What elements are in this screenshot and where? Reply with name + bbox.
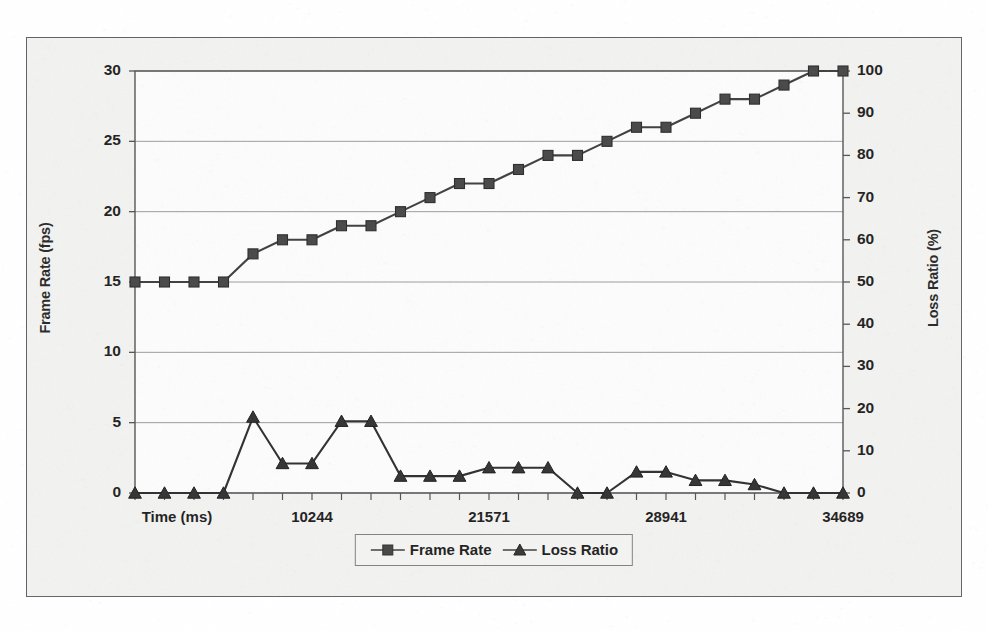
chart-legend: Frame Rate Loss Ratio [355,534,633,566]
chart-frame: Frame Rate (fps) Loss Ratio (%) 05101520… [26,37,962,597]
y-axis-right-tick-label: 80 [857,145,903,163]
y-axis-left-tick-label: 25 [75,131,121,149]
y-axis-right-tick-label: 60 [857,230,903,248]
legend-label-loss-ratio: Loss Ratio [542,541,619,558]
legend-entry-loss-ratio: Loss Ratio [502,541,619,558]
triangle-marker-icon [502,543,538,557]
x-axis-tick-label: 34689 [822,508,864,525]
y-axis-right-tick-label: 0 [857,483,903,501]
y-axis-right-tick-label: 40 [857,314,903,332]
y-axis-right-tick-label: 50 [857,272,903,290]
y-axis-right-tick-label: 10 [857,441,903,459]
y-axis-left-tick-label: 5 [75,413,121,431]
x-axis-tick-label: 21571 [468,508,510,525]
y-axis-right-tick-label: 20 [857,399,903,417]
y-axis-right-tick-label: 90 [857,103,903,121]
y-axis-left-tick-label: 0 [75,483,121,501]
y-axis-right-title: Loss Ratio (%) [925,178,941,378]
y-axis-right-tick-label: 100 [857,61,903,79]
x-axis-title: Time (ms) [142,508,213,525]
x-axis-tick-label: 28941 [645,508,687,525]
y-axis-left-tick-label: 30 [75,61,121,79]
square-marker-icon [370,543,406,557]
y-axis-left-tick-label: 10 [75,342,121,360]
legend-entry-frame-rate: Frame Rate [370,541,492,558]
y-axis-right-tick-label: 70 [857,188,903,206]
chart-plot-container: Frame Rate (fps) Loss Ratio (%) 05101520… [27,38,961,596]
x-axis-tick-label: 10244 [291,508,333,525]
legend-label-frame-rate: Frame Rate [410,541,492,558]
y-axis-right-tick-label: 30 [857,356,903,374]
y-axis-left-tick-label: 20 [75,202,121,220]
y-axis-left-tick-label: 15 [75,272,121,290]
y-axis-left-title: Frame Rate (fps) [37,178,53,378]
